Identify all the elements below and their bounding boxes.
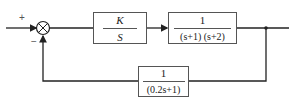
fraction-bar	[143, 81, 185, 82]
feedback-denominator: (0.2s+1)	[147, 84, 181, 96]
controller-numerator: K	[116, 14, 123, 26]
plant-denominator: (s+1) (s+2)	[180, 31, 225, 43]
summing-junction-icon	[37, 22, 50, 35]
controller-denominator: S	[117, 31, 123, 43]
controller-block: K S	[93, 12, 147, 44]
fraction-bar	[174, 28, 231, 29]
plus-sign: +	[19, 12, 25, 23]
fraction-bar	[103, 28, 137, 29]
minus-sign: −	[31, 36, 37, 47]
feedback-block: 1 (0.2s+1)	[138, 66, 189, 97]
plant-numerator: 1	[200, 14, 206, 26]
plant-block: 1 (s+1) (s+2)	[168, 12, 237, 44]
feedback-numerator: 1	[161, 67, 167, 79]
